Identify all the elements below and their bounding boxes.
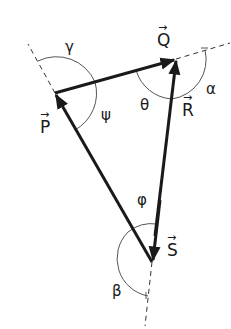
arc-theta <box>136 70 172 99</box>
label-alpha: α <box>206 80 216 98</box>
dashed-extension-p <box>28 44 55 93</box>
label-q: → Q <box>157 21 170 50</box>
arc-gamma <box>38 57 95 82</box>
label-p: → P <box>40 108 50 137</box>
vector-s <box>153 200 160 260</box>
arc-beta <box>117 232 148 296</box>
svg-text:P: P <box>40 117 50 137</box>
vector-q <box>55 60 174 93</box>
svg-text:Q: Q <box>157 30 170 50</box>
vector-triangle-diagram: → Q → P → R → S γ ψ θ α φ β <box>0 0 231 329</box>
label-phi: φ <box>137 191 147 209</box>
label-r: → R <box>182 91 194 120</box>
label-gamma: γ <box>65 38 74 56</box>
label-theta: θ <box>140 96 149 114</box>
svg-text:R: R <box>182 100 194 120</box>
arc-psi <box>75 82 97 130</box>
label-s: → S <box>167 231 178 260</box>
dashed-extension-q <box>176 43 230 59</box>
label-beta: β <box>112 282 122 300</box>
svg-text:S: S <box>167 240 178 260</box>
label-psi: ψ <box>101 106 111 124</box>
